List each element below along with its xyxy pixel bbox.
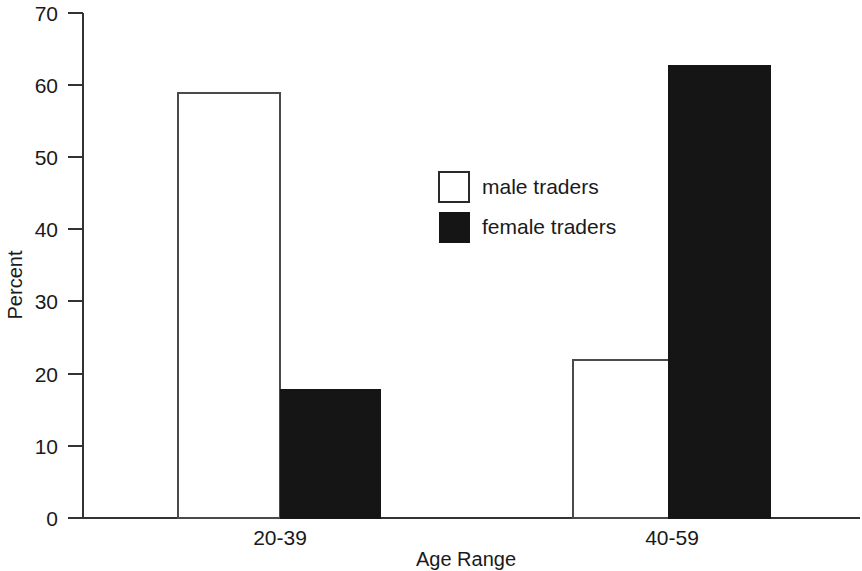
legend-item-male-traders: male traders: [439, 172, 599, 202]
y-tick-label-30: 30: [35, 290, 58, 313]
bar-female-20-39: [280, 389, 380, 518]
y-tick-label-50: 50: [35, 146, 58, 169]
plot-area: 70 60 50 40 30 20 10 0 Percent 20-39 40-…: [0, 0, 862, 571]
y-tick-label-60: 60: [35, 74, 58, 97]
legend-swatch-filled-square: [439, 212, 469, 242]
legend-swatch-open-square: [439, 172, 469, 202]
y-tick-label-0: 0: [46, 507, 58, 530]
legend: male traders female traders: [439, 172, 616, 242]
bar-male-40-59: [573, 360, 669, 518]
x-tick-label-40-59: 40-59: [645, 526, 699, 549]
chart-canvas: 70 60 50 40 30 20 10 0 Percent 20-39 40-…: [0, 0, 862, 571]
y-axis-title: Percent: [4, 250, 26, 319]
x-axis-title: Age Range: [416, 548, 516, 570]
bar-male-20-39: [178, 93, 280, 518]
bar-chart: 70 60 50 40 30 20 10 0 Percent 20-39 40-…: [0, 0, 862, 571]
x-tick-label-20-39: 20-39: [253, 526, 307, 549]
y-tick-label-70: 70: [35, 2, 58, 25]
y-tick-label-40: 40: [35, 218, 58, 241]
y-tick-label-10: 10: [35, 435, 58, 458]
legend-label-female-traders: female traders: [482, 215, 616, 238]
bar-female-40-59: [668, 65, 770, 518]
legend-label-male-traders: male traders: [482, 175, 599, 198]
y-tick-label-20: 20: [35, 363, 58, 386]
legend-item-female-traders: female traders: [439, 212, 616, 242]
